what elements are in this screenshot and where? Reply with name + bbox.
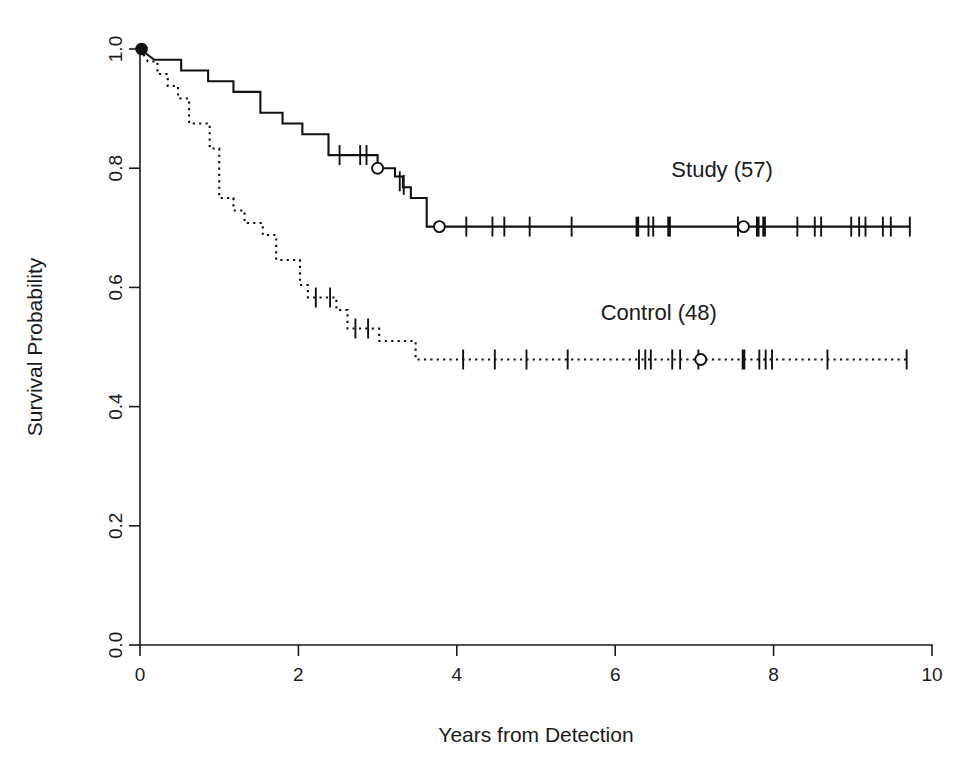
y-axis-ticks: 0.00.20.40.60.81.0 [105, 36, 140, 658]
x-tick-label: 2 [293, 664, 304, 685]
series-study [136, 44, 910, 237]
x-tick-label: 10 [921, 664, 942, 685]
y-tick-label: 0.4 [105, 393, 126, 420]
y-tick-label: 0.2 [105, 513, 126, 539]
km-plot-svg: 0246810 0.00.20.40.60.81.0 Study (57)Con… [0, 0, 980, 781]
axis-titles: Years from Detection Survival Probabilit… [23, 257, 634, 746]
x-tick-label: 4 [452, 664, 463, 685]
series-annotations: Study (57)Control (48) [601, 157, 773, 325]
event-marker [434, 221, 445, 232]
event-marker [738, 221, 749, 232]
y-axis-title: Survival Probability [23, 257, 46, 436]
km-figure: 0246810 0.00.20.40.60.81.0 Study (57)Con… [0, 0, 980, 781]
series-annotation-study: Study (57) [671, 157, 773, 182]
survival-curve-study [140, 49, 910, 227]
event-marker [695, 354, 706, 365]
x-tick-label: 0 [135, 664, 146, 685]
event-marker [372, 163, 383, 174]
survival-curve-control [140, 49, 910, 360]
plot-axes [140, 49, 932, 645]
x-axis-ticks: 0246810 [135, 645, 943, 685]
y-tick-label: 0.0 [105, 632, 126, 658]
x-tick-label: 8 [768, 664, 779, 685]
origin-marker [136, 44, 147, 55]
series-annotation-control: Control (48) [601, 300, 717, 325]
y-tick-label: 0.8 [105, 155, 126, 181]
y-tick-label: 1.0 [105, 36, 126, 62]
x-tick-label: 6 [610, 664, 621, 685]
y-tick-label: 0.6 [105, 274, 126, 300]
series-control [140, 49, 910, 370]
x-axis-title: Years from Detection [438, 723, 633, 746]
series-layer [136, 44, 910, 370]
